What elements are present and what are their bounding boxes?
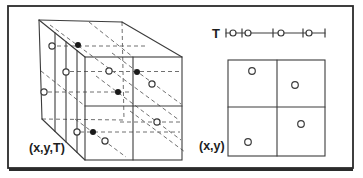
time-axis-label: T [212,26,220,41]
data-point-open [102,138,108,144]
hidden-edge [41,71,85,106]
data-point-open [106,68,112,74]
time-point [245,30,251,36]
data-point-open [63,69,69,75]
plane-point [245,139,252,146]
data-point-filled [90,129,96,135]
xy-plane [228,60,325,156]
spacetime-cube [39,20,185,160]
figure: (x,y,T) (x,y) T [0,0,363,178]
cube-edge [39,20,42,119]
plane-point [292,82,299,89]
data-point-filled [115,89,121,95]
plane-point [298,121,305,128]
data-point-open [41,89,47,95]
data-point-open [154,119,160,125]
data-point-filled [75,42,81,48]
time-point [306,30,312,36]
cube-edge [39,20,85,57]
data-point-open [49,43,55,49]
hidden-edge [42,119,124,120]
plane-label: (x,y) [199,139,225,153]
guide-line-t [96,76,181,140]
cube-edge [39,20,122,22]
data-point-open [149,81,155,87]
time-axis [226,29,325,38]
time-point [278,30,284,36]
cube-label: (x,y,T) [29,141,65,155]
data-point-open [74,129,80,135]
hidden-edge [89,22,133,57]
plane-point [249,68,256,75]
diagram-canvas: (x,y,T) (x,y) T [0,0,363,178]
guide-line-t [75,119,126,157]
data-point-filled [134,69,140,75]
cube-edge [122,22,182,57]
time-point [230,30,236,36]
